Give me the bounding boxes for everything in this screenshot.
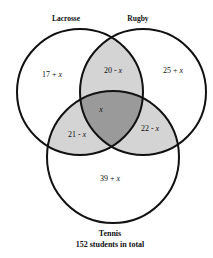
region-rugby-tennis: 22 - x bbox=[141, 124, 160, 133]
venn-diagram: Lacrosse Rugby 17 + x 20 - x 25 + x x 21… bbox=[0, 0, 213, 258]
lacrosse-label: Lacrosse bbox=[52, 14, 81, 23]
region-all-three: x bbox=[98, 105, 103, 114]
rugby-label: Rugby bbox=[127, 14, 149, 23]
region-lacrosse-tennis: 21 - x bbox=[68, 130, 87, 139]
region-lacrosse-rugby: 20 - x bbox=[104, 66, 123, 75]
tennis-label: Tennis bbox=[99, 229, 121, 238]
region-lacrosse-only: 17 + x bbox=[42, 70, 63, 79]
region-tennis-only: 39 + x bbox=[100, 174, 121, 183]
region-rugby-only: 25 + x bbox=[163, 66, 184, 75]
total-label: 152 students in total bbox=[76, 240, 145, 249]
